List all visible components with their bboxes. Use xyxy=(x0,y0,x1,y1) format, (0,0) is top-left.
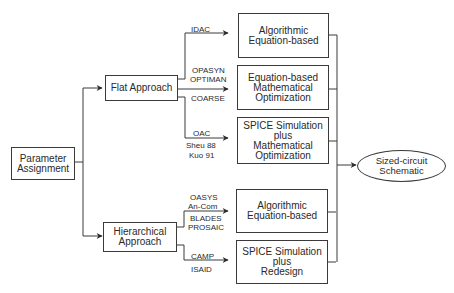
method-3-line4: Optimization xyxy=(255,151,311,161)
tool-label-sheu88: Sheu 88 xyxy=(186,141,216,150)
tool-label-opasyn: OPASYN xyxy=(192,66,225,75)
method-2-line3: Optimization xyxy=(255,93,311,103)
output-line2: Schematic xyxy=(379,166,423,176)
tool-label-camp: CAMP xyxy=(191,252,214,261)
method-1-line2: Equation-based xyxy=(248,36,318,46)
tool-label-optiman: OPTIMAN xyxy=(190,75,226,84)
method-2-line2: Mathematical xyxy=(253,83,312,93)
root-label-line1: Parameter xyxy=(20,154,67,164)
flat-approach-label: Flat Approach xyxy=(111,83,173,93)
parameter-assignment-box: Parameter Assignment xyxy=(11,147,75,180)
method-2-line1: Equation-based xyxy=(248,73,318,83)
tool-label-an-com: An-Com xyxy=(188,202,217,211)
method-box-spice-optimization: SPICE Simulation plus Mathematical Optim… xyxy=(237,117,329,164)
method-3-line3: Mathematical xyxy=(253,141,312,151)
tool-label-idac: IDAC xyxy=(191,25,210,34)
method-5-line3: Redesign xyxy=(261,267,303,277)
tool-label-isaid: ISAID xyxy=(191,265,212,274)
tool-label-blades: BLADES xyxy=(190,214,222,223)
tool-label-oasys: OASYS xyxy=(190,193,218,202)
hierarchical-approach-box: Hierarchical Approach xyxy=(103,222,177,252)
method-box-algorithmic-flat: Algorithmic Equation-based xyxy=(238,13,329,58)
method-3-line1: SPICE Simulation xyxy=(243,121,322,131)
method-box-algorithmic-hierarchical: Algorithmic Equation-based xyxy=(236,189,328,233)
method-box-spice-redesign: SPICE Simulation plus Redesign xyxy=(236,240,328,284)
tool-label-prosaic: PROSAIC xyxy=(188,223,224,232)
method-box-equation-optimization: Equation-based Mathematical Optimization xyxy=(237,65,329,110)
tool-label-coarse: COARSE xyxy=(191,94,225,103)
hierarchical-label-line2: Approach xyxy=(119,237,162,247)
flat-approach-box: Flat Approach xyxy=(105,75,178,101)
tool-label-kuo91: Kuo 91 xyxy=(189,151,214,160)
method-4-line2: Equation-based xyxy=(247,211,317,221)
method-3-line2: plus xyxy=(274,131,292,141)
sized-circuit-schematic-ellipse: Sized-circuit Schematic xyxy=(357,150,446,182)
root-label-line2: Assignment xyxy=(17,164,69,174)
tool-label-oac: OAC xyxy=(193,129,210,138)
method-1-line1: Algorithmic xyxy=(259,26,308,36)
